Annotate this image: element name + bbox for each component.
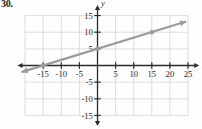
x-tick-label: -15: [37, 69, 48, 79]
y-axis-label: y: [100, 0, 105, 8]
x-tick-label: -10: [56, 69, 67, 79]
data-line: [21, 22, 186, 73]
x-tick-label: 5: [113, 69, 117, 79]
y-tick-label: -5: [86, 77, 93, 87]
y-tick-label: -10: [81, 94, 92, 104]
x-tick-label: 10: [129, 69, 138, 79]
coordinate-plane-chart: -15-10-551015202515105-5-10-15 xy: [0, 0, 202, 129]
data-point: [150, 30, 155, 35]
x-tick-label: 25: [184, 69, 193, 79]
y-tick-label: 10: [84, 27, 93, 37]
data-point: [41, 63, 46, 68]
line-arrowhead: [179, 21, 186, 27]
x-tick-label: 15: [148, 69, 157, 79]
figure-container: 30. -15-10-551015202515105-5-10-15 xy: [0, 0, 202, 129]
y-tick-label: -15: [81, 111, 92, 121]
y-tick-label: 15: [84, 11, 93, 21]
x-tick-label: -5: [76, 69, 83, 79]
x-tick-label: 20: [166, 69, 175, 79]
x-axis-label: x: [201, 61, 202, 71]
data-point: [95, 47, 100, 52]
